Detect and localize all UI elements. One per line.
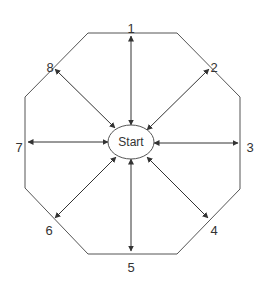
node-label-8: 8 xyxy=(46,60,53,75)
node-label-3: 3 xyxy=(246,140,253,155)
node-label-1: 1 xyxy=(127,21,134,36)
double-arrow-2 xyxy=(147,69,209,130)
node-label-2: 2 xyxy=(210,60,217,75)
node-label-6: 6 xyxy=(45,223,52,238)
node-label-4: 4 xyxy=(210,223,217,238)
start-label: Start xyxy=(118,135,144,149)
node-label-7: 7 xyxy=(15,140,22,155)
double-arrow-4 xyxy=(147,157,208,218)
double-arrow-8 xyxy=(55,69,115,128)
node-label-5: 5 xyxy=(127,260,134,275)
start-diagram: Start 12345678 xyxy=(0,0,267,285)
double-arrow-6 xyxy=(55,157,116,218)
